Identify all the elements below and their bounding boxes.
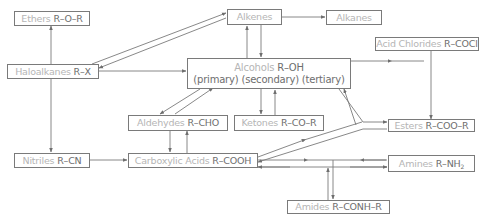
node-aldehydes: Aldehydes R–CHO: [128, 115, 228, 131]
node-name: Alkenes: [237, 11, 273, 23]
node-alcohols: Alcohols R–OH (primary) (secondary) (ter…: [187, 58, 351, 89]
node-name: Amides: [295, 201, 329, 212]
node-name: Alkanes: [336, 12, 372, 24]
node-formula: R–CONH–R: [332, 201, 381, 212]
node-nitriles: Nitriles R–CN: [14, 153, 90, 168]
node-name: Alcohols: [234, 62, 274, 73]
node-formula: R–CHO: [187, 117, 219, 128]
node-name: Haloalkanes: [15, 66, 71, 77]
node-name: Ethers: [21, 13, 50, 24]
node-formula: R–COCl: [444, 38, 478, 49]
node-formula-subscript: 2: [461, 163, 465, 170]
node-ethers: Ethers R–O–R: [14, 11, 90, 26]
node-alkenes: Alkenes: [227, 9, 282, 25]
node-alkanes: Alkanes: [326, 10, 382, 25]
node-name: Esters: [395, 120, 423, 131]
node-ketones: Ketones R–CO–R: [234, 115, 324, 131]
node-name: Amines: [399, 158, 433, 169]
node-name: Nitriles: [23, 155, 55, 166]
node-amines: Amines R–NH2: [388, 155, 475, 172]
node-acid-chlorides: Acid Chlorides R–COCl: [375, 37, 479, 51]
node-name: Ketones: [241, 117, 278, 128]
node-esters: Esters R–COO–R: [388, 119, 475, 132]
node-formula: R–X: [74, 66, 91, 77]
node-name: Carboxylic Acids: [135, 155, 210, 166]
node-formula: R–OH: [277, 62, 304, 73]
node-formula: R–COOH: [212, 155, 251, 166]
node-formula: R–COO–R: [426, 120, 469, 131]
node-formula: R–CO–R: [281, 117, 317, 128]
node-name: Acid Chlorides: [376, 38, 441, 49]
reaction-arrows: [0, 0, 486, 218]
node-carboxylic-acids: Carboxylic Acids R–COOH: [128, 153, 258, 168]
node-formula: R–O–R: [53, 13, 82, 24]
node-name: Aldehydes: [137, 117, 185, 128]
node-formula: R–NH: [436, 158, 461, 169]
node-haloalkanes: Haloalkanes R–X: [7, 64, 99, 79]
node-amides: Amides R–CONH–R: [287, 200, 390, 214]
node-formula: R–CN: [57, 155, 81, 166]
node-subtitle: (primary) (secondary) (tertiary): [193, 74, 344, 86]
